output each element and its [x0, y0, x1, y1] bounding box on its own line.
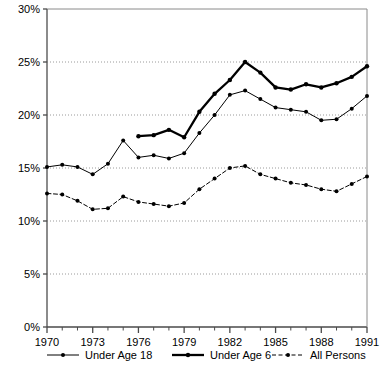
data-point	[213, 113, 217, 117]
y-tick-label: 30%	[18, 3, 40, 15]
y-axis-tick-labels: 0%5%10%15%20%25%30%	[18, 3, 40, 333]
data-point	[243, 89, 247, 93]
data-point	[151, 133, 155, 137]
data-point	[167, 128, 171, 132]
x-tick-label: 1976	[126, 336, 150, 348]
legend-marker-0	[61, 353, 65, 357]
poverty-rate-line-chart: 0%5%10%15%20%25%30% 19701973197619791982…	[0, 0, 385, 370]
data-point	[182, 151, 186, 155]
data-point	[350, 75, 354, 79]
data-point	[197, 110, 201, 114]
data-point	[289, 87, 293, 91]
data-point	[136, 200, 140, 204]
data-point	[197, 131, 201, 135]
data-point	[319, 85, 323, 89]
x-tick-label: 1985	[263, 336, 287, 348]
data-point	[136, 134, 140, 138]
data-point	[182, 201, 186, 205]
legend-label-2: All Persons	[310, 349, 366, 361]
x-tick-label: 1979	[172, 336, 196, 348]
data-point	[319, 118, 323, 122]
data-point	[45, 191, 49, 195]
data-point	[136, 155, 140, 159]
data-point	[365, 64, 369, 68]
data-point	[334, 81, 338, 85]
y-tick-label: 0%	[24, 321, 40, 333]
data-point	[289, 108, 293, 112]
x-tick-label: 1982	[218, 336, 242, 348]
data-point	[167, 156, 171, 160]
data-point	[258, 97, 262, 101]
data-point	[228, 78, 232, 82]
data-point	[365, 94, 369, 98]
data-point	[197, 187, 201, 191]
y-tick-label: 15%	[18, 162, 40, 174]
data-point	[274, 106, 278, 110]
data-point	[304, 110, 308, 114]
data-point	[152, 202, 156, 206]
data-point	[350, 107, 354, 111]
data-point	[60, 193, 64, 197]
data-point	[75, 165, 79, 169]
data-point	[335, 117, 339, 121]
data-point	[182, 135, 186, 139]
data-point	[228, 93, 232, 97]
data-point	[121, 138, 125, 142]
data-point	[350, 182, 354, 186]
y-tick-label: 10%	[18, 215, 40, 227]
data-point	[258, 172, 262, 176]
data-point	[45, 165, 49, 169]
legend-marker-1	[186, 353, 190, 357]
y-tick-label: 5%	[24, 268, 40, 280]
data-point	[243, 164, 247, 168]
data-point	[152, 153, 156, 157]
data-point	[319, 187, 323, 191]
data-point	[106, 206, 110, 210]
y-tick-label: 25%	[18, 56, 40, 68]
legend-marker-2	[286, 353, 290, 357]
data-point	[289, 181, 293, 185]
x-tick-label: 1970	[35, 336, 59, 348]
data-point	[121, 195, 125, 199]
data-point	[106, 162, 110, 166]
x-axis-tick-labels: 19701973197619791982198519881991	[35, 336, 379, 348]
legend-label-0: Under Age 18	[85, 349, 152, 361]
data-point	[213, 177, 217, 181]
data-point	[335, 189, 339, 193]
data-point	[228, 166, 232, 170]
data-point	[304, 82, 308, 86]
data-point	[273, 85, 277, 89]
x-tick-label: 1973	[80, 336, 104, 348]
legend-label-1: Under Age 6	[210, 349, 271, 361]
x-tick-label: 1991	[355, 336, 379, 348]
chart-legend: Under Age 18Under Age 6All Persons	[47, 349, 366, 361]
series-line-1	[138, 62, 367, 137]
data-point	[274, 177, 278, 181]
data-point	[91, 172, 95, 176]
data-point	[167, 204, 171, 208]
data-point	[243, 60, 247, 64]
data-point	[60, 163, 64, 167]
grid-lines	[47, 9, 367, 274]
data-point	[91, 207, 95, 211]
y-tick-label: 20%	[18, 109, 40, 121]
x-tick-label: 1988	[309, 336, 333, 348]
data-point	[258, 70, 262, 74]
axis-ticks	[43, 9, 367, 333]
data-point	[365, 174, 369, 178]
chart-container: 0%5%10%15%20%25%30% 19701973197619791982…	[0, 0, 385, 370]
data-point	[212, 92, 216, 96]
data-point	[304, 183, 308, 187]
data-point	[75, 199, 79, 203]
data-series	[45, 60, 369, 212]
